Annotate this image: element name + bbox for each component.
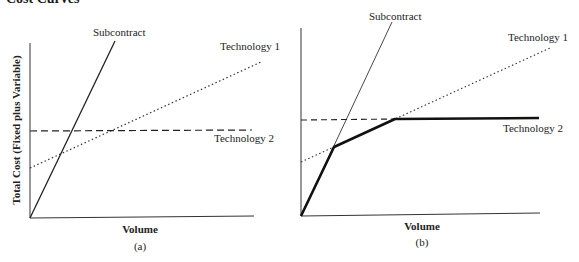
cost-curves-figure: Total Cost (Fixed plus Variable) Subcont… (0, 0, 579, 262)
x-axis-label-b: Volume (404, 220, 440, 232)
x-axis-a (30, 216, 254, 218)
panel-b: Subcontract Technology 1 Technology 2 Vo… (301, 10, 568, 249)
technology2-line-b (301, 119, 395, 120)
panel-a: Subcontract Technology 1 Technology 2 Vo… (30, 26, 280, 253)
caption-b: (b) (416, 236, 429, 249)
subcontract-label-b: Subcontract (369, 10, 422, 22)
technology2-line-a (30, 130, 252, 131)
subcontract-line-a (30, 41, 115, 218)
technology2-label-b: Technology 2 (503, 122, 563, 134)
technology1-line-a (30, 62, 261, 168)
y-axis-label: Total Cost (Fixed plus Variable) (10, 55, 23, 205)
technology2-label-a: Technology 2 (214, 132, 274, 144)
caption-a: (a) (134, 240, 147, 253)
technology1-label-a: Technology 1 (220, 40, 280, 52)
x-axis-label-a: Volume (122, 223, 158, 235)
technology1-label-b: Technology 1 (508, 31, 568, 43)
x-axis-b (301, 213, 540, 216)
subcontract-label-a: Subcontract (93, 26, 146, 38)
